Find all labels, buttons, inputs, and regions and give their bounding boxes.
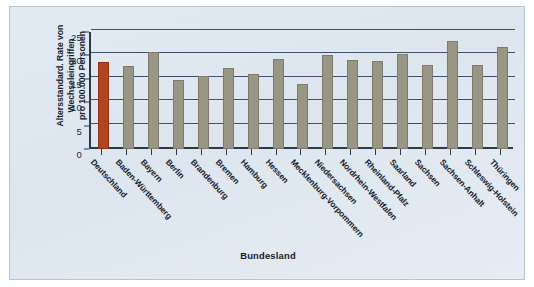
bar — [297, 84, 308, 149]
chart-figure: Altersstandard. Rate von Wechseleingriff… — [0, 0, 534, 287]
bar — [123, 66, 134, 149]
bar — [148, 52, 159, 149]
bar — [198, 76, 209, 149]
bar — [372, 61, 383, 149]
x-label-slot: Berlin — [164, 155, 189, 245]
x-label-slot: Sachsen-Anhalt — [438, 155, 463, 245]
bar — [497, 47, 508, 149]
bar — [273, 59, 284, 149]
x-label-slot: Deutschland — [89, 155, 114, 245]
x-label-slot: Hamburg — [239, 155, 264, 245]
x-tick-label: Thüringen — [488, 157, 522, 193]
gridline — [91, 29, 515, 30]
plot-area — [89, 32, 513, 149]
bar — [422, 65, 433, 149]
x-tick-label: Berlin — [163, 157, 186, 181]
x-label-slot: Rheinland-Pfalz — [363, 155, 388, 245]
bar — [173, 80, 184, 149]
x-label-slot: Saarland — [388, 155, 413, 245]
chart-panel: Altersstandard. Rate von Wechseleingriff… — [9, 6, 525, 280]
x-label-slot: Niedersachsen — [313, 155, 338, 245]
bar — [397, 54, 408, 149]
x-label-slot: Mecklenburg-Vorpommern — [289, 155, 314, 245]
x-axis-labels: DeutschlandBaden-WürttembergBayernBerlin… — [89, 155, 513, 245]
x-axis-title: Bundesland — [10, 250, 526, 261]
x-tick-label: Bremen — [213, 157, 241, 186]
x-label-slot: Thüringen — [488, 155, 513, 245]
x-label-slot: Schleswig-Holstein — [463, 155, 488, 245]
x-label-slot: Bayern — [139, 155, 164, 245]
x-label-slot: Sachsen — [413, 155, 438, 245]
x-label-slot: Bremen — [214, 155, 239, 245]
bar-series — [91, 32, 515, 149]
bar — [248, 74, 259, 149]
x-label-slot: Nordrhein-Westfalen — [338, 155, 363, 245]
y-axis: 0510152025 — [60, 32, 89, 149]
bar — [98, 62, 109, 149]
x-label-slot: Hessen — [264, 155, 289, 245]
x-tick-label: Bayern — [139, 157, 165, 184]
x-tick-label: Hessen — [263, 157, 290, 185]
bar — [322, 55, 333, 149]
bar — [447, 41, 458, 149]
bar — [223, 68, 234, 149]
bar — [472, 65, 483, 149]
x-label-slot: Baden-Württemberg — [114, 155, 139, 245]
x-label-slot: Brandenburg — [189, 155, 214, 245]
bar — [347, 60, 358, 149]
